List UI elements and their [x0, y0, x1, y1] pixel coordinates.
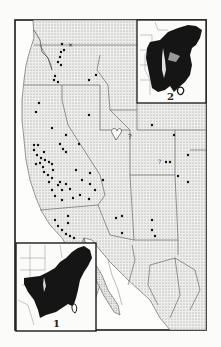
cross-marker: × [68, 41, 73, 48]
inset-2-label: 2 [167, 91, 174, 102]
query-mark-1: ? [128, 133, 132, 141]
query-mark-2: ? [158, 158, 161, 165]
distribution-map: × ? ? 2 1 [0, 0, 221, 347]
inset-1-label: 1 [53, 318, 60, 329]
